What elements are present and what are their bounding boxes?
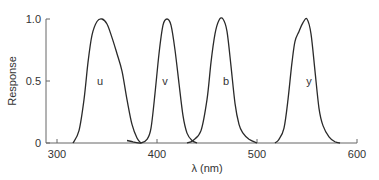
x-tick-label: 600 [348, 148, 366, 160]
response-curve-u [73, 19, 141, 143]
y-axis-label: Response [6, 56, 18, 106]
curve-label-b: b [223, 75, 229, 87]
curve-label-u: u [97, 75, 103, 87]
chart-canvas: 30040050060000.51.0 uvby λ (nm) Response [0, 0, 379, 180]
y-tick-label: 1.0 [26, 13, 41, 25]
curve-label-group: uvby [97, 75, 312, 87]
y-tick-label: 0.5 [26, 75, 41, 87]
x-tick-label: 500 [248, 148, 266, 160]
spectral-response-chart: 30040050060000.51.0 uvby λ (nm) Response [0, 0, 379, 180]
y-tick-label: 0 [35, 137, 41, 149]
x-tick-label: 300 [48, 148, 66, 160]
x-tick-label: 400 [148, 148, 166, 160]
curve-group [73, 18, 340, 143]
x-axis-label: λ (nm) [191, 162, 222, 174]
curve-label-v: v [162, 75, 168, 87]
curve-label-y: y [306, 75, 312, 87]
